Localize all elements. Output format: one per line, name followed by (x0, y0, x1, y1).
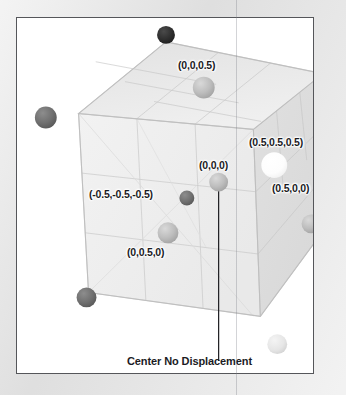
node-0-0-0 (209, 173, 228, 192)
node-corner-left (35, 107, 57, 129)
label-0-0-0: (0,0,0) (199, 159, 228, 171)
figure-caption: Center No Displacement (127, 355, 252, 367)
node-0.5-0.5-0.5 (261, 152, 287, 178)
label-0.5-0-0: (0.5,0,0) (272, 182, 309, 194)
node-0-0.5-0 (158, 222, 179, 243)
label-neg0.5-neg0.5-neg0.5: (-0.5,-0.5,-0.5) (89, 188, 153, 200)
node-neg0.5-neg0.5-neg0.5 (179, 191, 194, 206)
page-guide-line (236, 0, 237, 395)
figure-panel: (0,0,0.5) (0.5,0.5,0.5) (0,0,0) (0.5,0,0… (16, 17, 314, 374)
cube-scene: (0,0,0.5) (0.5,0.5,0.5) (0,0,0) (0.5,0,0… (17, 18, 313, 373)
label-0.5-0.5-0.5: (0.5,0.5,0.5) (249, 136, 303, 148)
cube-svg (17, 18, 313, 373)
label-0-0-0.5: (0,0,0.5) (178, 59, 215, 71)
node-corner-top-back (157, 26, 175, 44)
node-corner-bottom-front (267, 334, 287, 354)
node-0-0-0.5 (193, 77, 215, 99)
cube-face-left (79, 113, 261, 316)
label-0-0.5-0: (0,0.5,0) (127, 246, 164, 258)
node-corner-bottom-left (77, 287, 97, 307)
